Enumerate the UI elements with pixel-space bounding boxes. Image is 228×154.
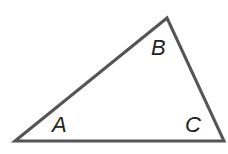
label-a: A (50, 112, 67, 137)
triangle-svg: A B C (0, 0, 228, 154)
label-b: B (151, 35, 166, 60)
label-c: C (185, 112, 201, 137)
triangle-diagram: A B C (0, 0, 228, 154)
